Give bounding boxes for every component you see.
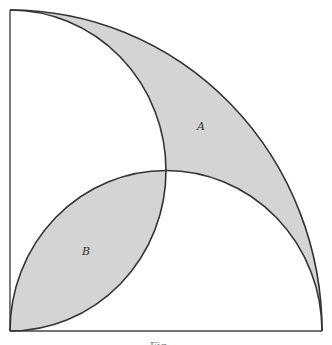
figure-caption: Fig [150, 337, 190, 345]
region-a-label: A [197, 120, 205, 133]
region-b-label: B [82, 245, 90, 258]
geometry-figure [10, 10, 322, 331]
figure-canvas [10, 10, 322, 331]
